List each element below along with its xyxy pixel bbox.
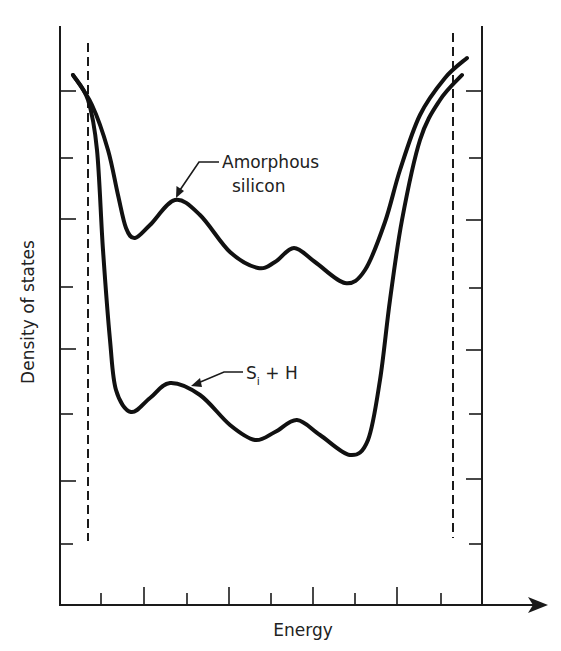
right-y-ticks xyxy=(466,91,482,544)
si-h-annotation: Si + H xyxy=(191,363,298,388)
amorphous-arrow-icon xyxy=(176,186,184,198)
y-axis-title: Density of states xyxy=(18,240,38,384)
amorphous-silicon-annotation: Amorphous silicon xyxy=(176,152,319,198)
x-axis-title: Energy xyxy=(273,620,333,640)
amorphous-leader-line xyxy=(180,162,219,190)
amorphous-label-line1: Amorphous xyxy=(222,152,319,172)
density-of-states-diagram: Amorphous silicon Si + H Energy Density … xyxy=(0,0,561,651)
si-h-leader-line xyxy=(198,372,243,383)
si-h-label: Si + H xyxy=(246,363,298,388)
x-ticks xyxy=(101,587,441,605)
si-h-label-main: S xyxy=(246,363,257,383)
amorphous-label-line2: silicon xyxy=(232,176,286,196)
si-h-arrow-icon xyxy=(191,378,202,387)
si-h-label-rest: + H xyxy=(260,363,298,383)
left-y-ticks xyxy=(60,91,76,544)
